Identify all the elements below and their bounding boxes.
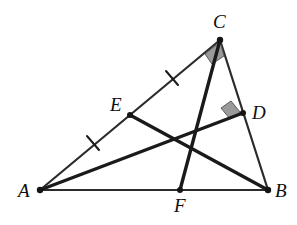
geometry-figure: A B C D E F: [0, 0, 297, 225]
vertex-dot-F: [177, 187, 183, 193]
vertex-dot-D: [240, 110, 246, 116]
vertex-dot-B: [265, 187, 271, 193]
cevian-AD: [40, 113, 243, 190]
vertex-label-A: A: [18, 181, 30, 200]
vertex-label-F: F: [174, 196, 186, 215]
vertex-label-D: D: [252, 103, 266, 122]
vertex-label-B: B: [275, 181, 287, 200]
vertex-dot-C: [217, 37, 223, 43]
vertex-label-E: E: [110, 95, 122, 114]
vertex-label-C: C: [213, 12, 226, 31]
vertex-dot-E: [127, 112, 133, 118]
vertex-dot-A: [37, 187, 43, 193]
cevian-CF: [180, 40, 220, 190]
